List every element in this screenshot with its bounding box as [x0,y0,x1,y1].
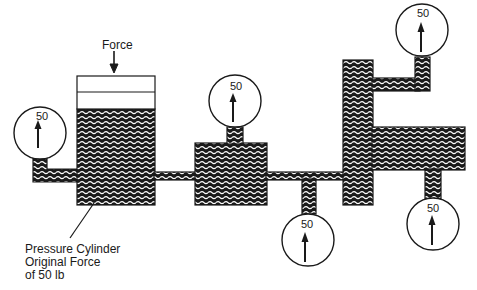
force-label: Force [102,39,133,52]
force-arrow-icon [110,51,118,73]
callout-line-3: of 50 lb [25,269,120,282]
callout-leader [70,203,94,238]
gauge-middle-bottom-value: 50 [301,218,313,230]
gauge-bottom-right-value: 50 [427,202,439,214]
piston [77,76,155,109]
gauge-top-right-value: 50 [417,7,429,19]
gauge-left-value: 50 [36,110,48,122]
gauge-middle-top-value: 50 [230,80,242,92]
pressure-cylinder-callout: Pressure Cylinder Original Force of 50 l… [25,243,120,282]
